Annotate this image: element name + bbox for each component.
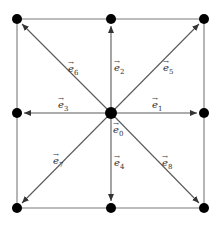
node-4 xyxy=(106,203,116,213)
svg-text:1: 1 xyxy=(158,105,162,113)
vector-e6-arrow xyxy=(22,24,111,113)
node-3 xyxy=(12,108,22,118)
svg-text:3: 3 xyxy=(64,105,68,113)
label-e6: → e 6 xyxy=(68,59,79,77)
label-e3: → e 3 xyxy=(58,95,68,113)
node-1 xyxy=(199,108,209,118)
node-8 xyxy=(199,203,209,213)
svg-text:4: 4 xyxy=(120,163,125,171)
node-7 xyxy=(12,203,22,213)
svg-text:6: 6 xyxy=(74,69,79,77)
label-e4: → e 4 xyxy=(114,153,125,171)
label-e0: → e 0 xyxy=(113,120,123,138)
label-e7: → e 7 xyxy=(53,151,63,169)
label-e5: → e 5 xyxy=(163,58,173,76)
label-e1: → e 1 xyxy=(152,95,162,113)
vector-e8-arrow xyxy=(111,113,199,203)
node-6 xyxy=(12,14,22,24)
svg-text:0: 0 xyxy=(119,130,123,138)
node-2 xyxy=(106,14,116,24)
lattice-diagram: → e 1 → e 2 → e 3 → e 4 → e 5 → e 6 xyxy=(0,0,220,228)
svg-text:2: 2 xyxy=(120,68,124,76)
label-e8: → e 8 xyxy=(162,153,172,171)
svg-text:8: 8 xyxy=(168,163,172,171)
node-5 xyxy=(199,14,209,24)
node-0-center xyxy=(105,107,117,119)
vector-e7-arrow xyxy=(22,113,111,203)
svg-text:7: 7 xyxy=(59,161,63,169)
label-e2: → e 2 xyxy=(114,58,124,76)
svg-text:5: 5 xyxy=(169,68,173,76)
